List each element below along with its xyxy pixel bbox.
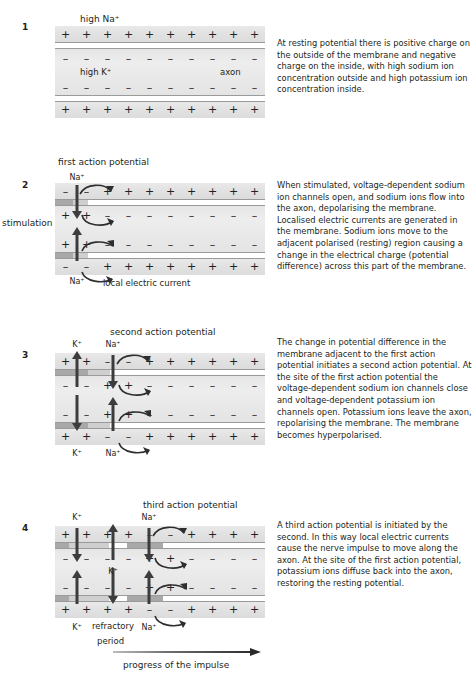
stimulation-label: stimulation — [2, 218, 52, 228]
membrane-potassium-segment-bottom-4 — [55, 596, 69, 601]
extracellular-bottom-3: ++– –++ +++ + — [55, 429, 265, 445]
panel-1-inside-label-right: axon — [220, 67, 241, 77]
panel-4-top-label: third action potential — [143, 500, 237, 510]
extracellular-top-1: +++ +++ +++ + — [55, 26, 265, 42]
charge-row-outer-top-3: ++– –++ +++ + — [55, 356, 265, 367]
panel-4-k-label-top: K⁺ — [72, 513, 81, 522]
progress-arrow-head — [250, 648, 261, 656]
membrane-potassium-segment-top-4 — [55, 543, 69, 548]
panel-4: 4 third action potential +++ +–– +++ + –… — [0, 498, 475, 679]
membrane-potassium-segment-top-3 — [55, 370, 88, 375]
panel-3-top-label: second action potential — [110, 327, 216, 337]
membrane-depolarised-segment-top-4 — [127, 543, 163, 548]
axon-diagram-3: ++– –++ +++ + ––+ +–– ––– – ––+ +–– ––– … — [55, 353, 265, 445]
charge-row-outer-bottom-3: ++– –++ +++ + — [55, 431, 265, 442]
panel-4-number: 4 — [22, 523, 28, 533]
membrane-repolarising-segment-bottom-3 — [88, 423, 110, 428]
local-current-curve-inner-top-2 — [80, 212, 120, 230]
panel-2-top-label: first action potential — [58, 157, 149, 167]
membrane-top-1 — [55, 42, 265, 49]
extracellular-bottom-1: +++ +++ +++ + — [55, 102, 265, 118]
local-current-curve-inner-top-3 — [117, 382, 157, 400]
panel-1-description: At resting potential there is positive c… — [277, 38, 473, 96]
panel-4-refractory-label-line2: period — [97, 636, 124, 646]
panel-3-number: 3 — [22, 350, 28, 360]
charge-row-inner-bottom-3: ––+ +–– ––– – — [55, 409, 265, 420]
membrane-depolarised-segment-bottom-2 — [55, 253, 73, 258]
membrane-bottom-1 — [55, 95, 265, 102]
charge-row-inner-top-3: ––+ +–– ––– – — [55, 380, 265, 391]
panel-4-k-label-inside: K⁺ — [108, 567, 117, 576]
panel-1-number: 1 — [22, 22, 28, 32]
panel-1-inside-label-left: high K⁺ — [80, 67, 111, 77]
membrane-top-2 — [55, 199, 265, 206]
membrane-top-4 — [55, 542, 265, 549]
local-current-curve-top-outside-2 — [78, 181, 118, 197]
panel-4-description: A third action potential is initiated by… — [277, 520, 473, 590]
panel-4-refractory-label-line1: refractory — [92, 621, 134, 631]
membrane-bottom-3 — [55, 422, 265, 429]
panel-1-top-label: high Na⁺ — [80, 14, 119, 24]
panel-3-description: The change in potential difference in th… — [277, 337, 473, 441]
local-current-curve-bottom-outside-2 — [80, 270, 120, 286]
charge-row-outer-bottom-1: +++ +++ +++ + — [55, 104, 265, 115]
local-current-curve-top-outside-3 — [115, 351, 155, 367]
local-current-curve-inner-bottom-3 — [117, 408, 157, 426]
progress-arrow-label: progress of the impulse — [123, 660, 229, 670]
panel-2: 2 first action potential stimulation ––+… — [0, 155, 475, 300]
cytoplasm-3: ––+ +–– ––– – ––+ +–– ––– – — [55, 376, 265, 422]
panel-3-na-label-top: Na⁺ — [105, 340, 120, 349]
progress-arrow — [113, 648, 263, 656]
membrane-repolarising-segment-top-3 — [88, 370, 110, 375]
local-current-curve-bottom-outside-3 — [117, 441, 157, 457]
progress-arrow-bar — [113, 651, 251, 653]
panel-4-k-label-bottom: K⁺ — [72, 623, 81, 632]
panel-3: 3 second action potential ++– –++ +++ + … — [0, 325, 475, 470]
extracellular-top-3: ++– –++ +++ + — [55, 353, 265, 369]
membrane-depolarised-segment-top-2 — [55, 200, 73, 205]
charge-row-inner-bottom-1: ––– ––– ––– – — [55, 82, 265, 93]
axon-diagram-1: +++ +++ +++ + ––– ––– ––– – high K⁺ axon… — [55, 26, 265, 118]
cytoplasm-1: ––– ––– ––– – high K⁺ axon ––– ––– ––– – — [55, 49, 265, 95]
panel-2-description: When stimulated, voltage-dependent sodiu… — [277, 180, 473, 273]
panel-4-na-label-top: Na⁺ — [141, 513, 156, 522]
charge-row-inner-top-1: ––– ––– ––– – — [55, 53, 265, 64]
panel-1: 1 high Na⁺ +++ +++ +++ + ––– ––– ––– – h… — [0, 8, 475, 138]
panel-2-number: 2 — [22, 180, 28, 190]
local-current-curve-inner-bottom-2 — [80, 238, 120, 256]
local-current-curve-inner-bottom-4 — [153, 581, 193, 599]
panel-3-k-label-top: K⁺ — [72, 340, 81, 349]
membrane-top-3 — [55, 369, 265, 376]
charge-row-outer-top-1: +++ +++ +++ + — [55, 29, 265, 40]
local-current-curve-bottom-outside-4 — [153, 614, 193, 630]
local-current-curve-inner-top-4 — [153, 555, 193, 573]
panel-3-k-label-bottom: K⁺ — [72, 449, 81, 458]
local-current-curve-top-outside-4 — [151, 523, 191, 539]
